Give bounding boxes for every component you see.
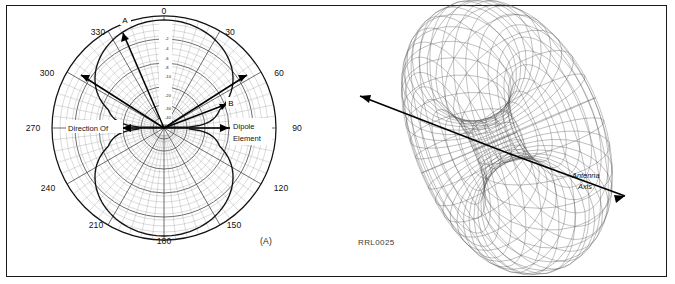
antenna-axis-label-line1: Antenna: [571, 171, 600, 180]
dipole-label-line2: Element: [233, 134, 262, 143]
angle-label-240: 240: [41, 183, 56, 193]
angle-label-60: 60: [274, 68, 284, 78]
angle-label-150: 150: [227, 220, 242, 230]
antenna-axis-arrow: [505, 152, 625, 196]
dipole-label-line1: Dipole: [233, 122, 255, 131]
torus-wireframe: [402, 0, 613, 275]
marker-label-a: A: [122, 16, 128, 25]
torus-svg: Antenna Axis: [320, 0, 661, 272]
angle-label-0: 0: [162, 6, 167, 16]
angle-label-300: 300: [40, 68, 55, 78]
marker-a-arrow: [123, 33, 164, 128]
panel-a-polar-plot: -2 -4 -6 -8 -10 -20 -30 -40: [14, 0, 314, 272]
db-label-40: -40: [165, 115, 172, 120]
angle-label-180: 180: [157, 236, 172, 246]
figure-id-code: RRL0025: [358, 238, 395, 247]
polar-plot-svg: -2 -4 -6 -8 -10 -20 -30 -40: [14, 0, 314, 272]
antenna-axis-label-line2: Axis: [577, 182, 592, 191]
angle-label-30: 30: [225, 27, 235, 37]
db-label-20: -20: [165, 93, 172, 98]
angle-label-270: 270: [26, 123, 41, 133]
angle-label-90: 90: [292, 123, 302, 133]
angle-label-210: 210: [89, 220, 104, 230]
figure-root: -2 -4 -6 -8 -10 -20 -30 -40: [0, 0, 675, 284]
panel-a-tag: (A): [260, 236, 272, 246]
polar-db-scale: -2 -4 -6 -8 -10 -20 -30 -40: [159, 20, 172, 124]
db-label-30: -30: [165, 106, 172, 111]
upper-left-arrowhead: [360, 95, 371, 103]
marker-label-b: B: [228, 99, 233, 108]
angle-label-330: 330: [91, 27, 106, 37]
angle-label-120: 120: [274, 183, 289, 193]
panel-b-3d-pattern: Antenna Axis (B): [320, 0, 661, 272]
db-label-10: -10: [165, 74, 172, 79]
horizontal-arrowhead-right: [220, 124, 229, 132]
antenna-axis-arrowhead: [614, 195, 625, 203]
direction-of-label: Direction Of: [68, 124, 109, 133]
